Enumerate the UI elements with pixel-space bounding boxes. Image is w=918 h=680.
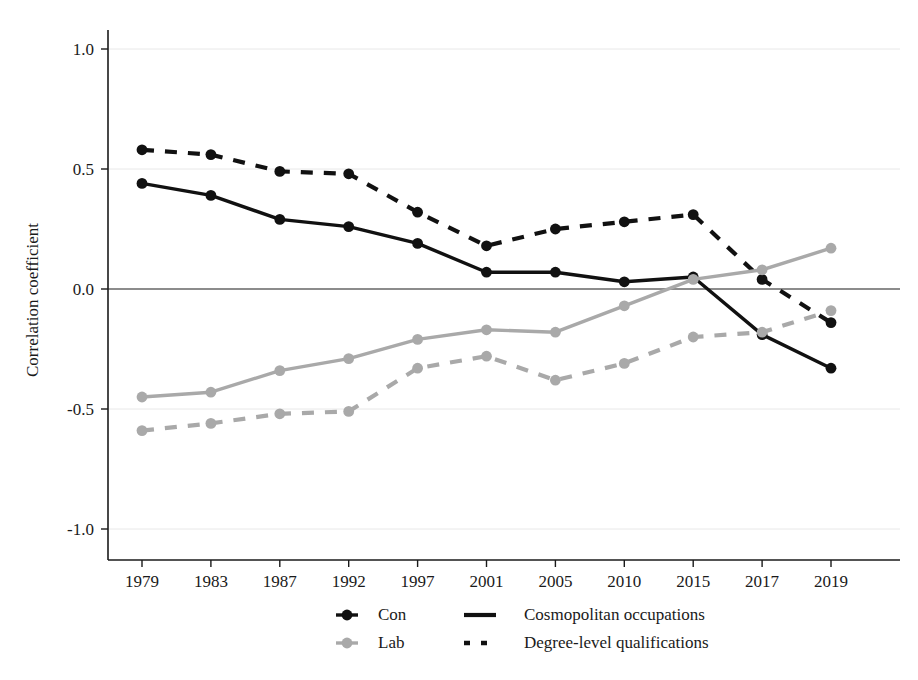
data-point [619, 216, 630, 227]
legend-marker-dot [342, 638, 353, 649]
data-point [343, 406, 354, 417]
legend-label: Cosmopolitan occupations [524, 605, 705, 624]
x-tick-label: 2015 [676, 572, 710, 591]
series-layer [137, 144, 837, 436]
data-point [412, 238, 423, 249]
data-point [137, 144, 148, 155]
data-point [550, 224, 561, 235]
legend-item-con[interactable]: Con [336, 605, 407, 624]
legend-item-cosmopolitan-occupations[interactable]: Cosmopolitan occupations [464, 605, 705, 624]
data-point [206, 190, 217, 201]
correlation-line-chart: 1.00.50.0-0.5-1.0 1979198319871992199720… [0, 0, 918, 680]
series-3 [137, 243, 837, 403]
y-axis-ticks [101, 49, 108, 529]
data-point [412, 334, 423, 345]
legend-marker-dot [342, 610, 353, 621]
data-point [274, 214, 285, 225]
x-tick-label: 2005 [538, 572, 572, 591]
data-point [826, 363, 837, 374]
data-point [481, 240, 492, 251]
data-point [757, 274, 768, 285]
data-point [274, 365, 285, 376]
data-point [826, 243, 837, 254]
y-tick-label: 0.5 [73, 160, 94, 179]
data-point [619, 300, 630, 311]
legend-label: Lab [378, 633, 404, 652]
data-point [826, 305, 837, 316]
y-tick-label: 0.0 [73, 280, 94, 299]
data-point [826, 317, 837, 328]
y-tick-label: -0.5 [67, 400, 94, 419]
data-point [206, 149, 217, 160]
y-tick-label: 1.0 [73, 40, 94, 59]
data-point [550, 267, 561, 278]
data-point [688, 332, 699, 343]
chart-legend: ConLabCosmopolitan occupationsDegree-lev… [336, 605, 709, 652]
data-point [550, 375, 561, 386]
legend-item-degree-level-qualifications[interactable]: Degree-level qualifications [464, 633, 709, 652]
x-tick-label: 2017 [745, 572, 780, 591]
data-point [550, 327, 561, 338]
data-point [343, 353, 354, 364]
y-axis-tick-labels: 1.00.50.0-0.5-1.0 [67, 40, 94, 539]
data-point [206, 387, 217, 398]
x-tick-label: 1983 [194, 572, 228, 591]
data-point [137, 178, 148, 189]
data-point [481, 267, 492, 278]
data-point [688, 209, 699, 220]
x-tick-label: 2019 [814, 572, 848, 591]
x-tick-label: 1979 [125, 572, 159, 591]
x-tick-label: 2001 [470, 572, 504, 591]
data-point [412, 363, 423, 374]
legend-item-lab[interactable]: Lab [336, 633, 404, 652]
data-point [481, 324, 492, 335]
data-point [757, 327, 768, 338]
x-tick-label: 1997 [401, 572, 436, 591]
data-point [137, 392, 148, 403]
axes [101, 30, 900, 567]
data-point [688, 274, 699, 285]
chart-figure: 1.00.50.0-0.5-1.0 1979198319871992199720… [0, 0, 918, 680]
legend-label: Con [378, 605, 407, 624]
y-tick-label: -1.0 [67, 520, 94, 539]
x-axis-tick-labels: 1979198319871992199720012005201020152017… [125, 572, 848, 591]
data-point [757, 264, 768, 275]
data-point [274, 166, 285, 177]
x-axis-ticks [142, 560, 831, 567]
legend-label: Degree-level qualifications [524, 633, 709, 652]
data-point [412, 207, 423, 218]
series-line [142, 150, 831, 323]
y-axis-title: Correlation coefficient [23, 223, 42, 377]
data-point [481, 351, 492, 362]
data-point [274, 408, 285, 419]
data-point [619, 276, 630, 287]
data-point [343, 168, 354, 179]
data-point [619, 358, 630, 369]
x-tick-label: 1987 [263, 572, 298, 591]
data-point [206, 418, 217, 429]
series-2 [137, 144, 837, 328]
data-point [343, 221, 354, 232]
series-1 [137, 178, 837, 374]
x-tick-label: 1992 [332, 572, 366, 591]
x-tick-label: 2010 [607, 572, 641, 591]
data-point [137, 425, 148, 436]
